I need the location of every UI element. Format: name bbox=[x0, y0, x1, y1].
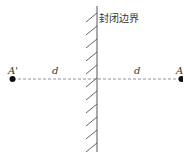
image-method-diagram: 封闭边界 A' A d d bbox=[0, 0, 183, 161]
point-a-label: A bbox=[175, 65, 183, 76]
source-point-a bbox=[179, 76, 184, 82]
point-a-prime-label: A' bbox=[7, 65, 18, 76]
distance-left-label: d bbox=[52, 65, 58, 76]
image-point-a-prime bbox=[10, 76, 16, 82]
boundary-hatching bbox=[86, 13, 97, 152]
boundary-label: 封闭边界 bbox=[99, 12, 139, 24]
distance-right-label: d bbox=[134, 65, 140, 76]
